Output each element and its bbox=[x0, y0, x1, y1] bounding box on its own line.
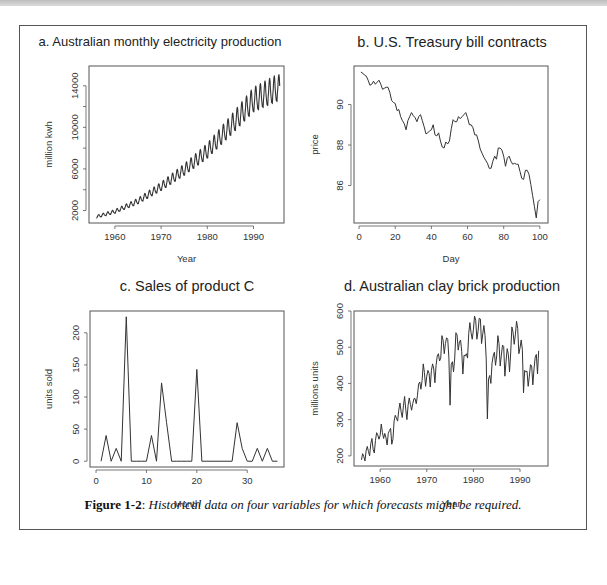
data-point bbox=[176, 461, 177, 462]
data-point bbox=[360, 71, 361, 72]
data-point bbox=[502, 344, 503, 345]
data-point bbox=[427, 370, 428, 371]
data-point bbox=[423, 363, 424, 364]
panel-title: d. Australian clay brick production bbox=[344, 278, 560, 294]
data-point bbox=[469, 322, 470, 323]
data-point bbox=[479, 318, 480, 319]
x-tick-label: 80 bbox=[498, 231, 509, 242]
data-point bbox=[496, 159, 497, 160]
data-point bbox=[369, 85, 370, 86]
data-point bbox=[373, 81, 374, 82]
data-point bbox=[440, 357, 441, 358]
data-point bbox=[411, 410, 412, 411]
data-point bbox=[409, 397, 410, 398]
data-point bbox=[460, 339, 461, 340]
data-point bbox=[405, 409, 406, 410]
data-point bbox=[272, 461, 273, 462]
y-axis-label: price bbox=[309, 134, 320, 155]
data-point bbox=[422, 120, 423, 121]
data-point bbox=[388, 433, 389, 434]
data-point bbox=[416, 121, 417, 122]
data-point bbox=[442, 146, 443, 147]
data-point bbox=[425, 386, 426, 387]
x-tick-label: 1980 bbox=[463, 474, 484, 485]
data-point bbox=[385, 437, 386, 438]
x-axis-label: Day bbox=[443, 253, 460, 264]
data-point bbox=[380, 84, 381, 85]
data-point bbox=[411, 112, 412, 113]
data-point bbox=[381, 423, 382, 424]
data-point bbox=[522, 349, 523, 350]
data-point bbox=[181, 461, 182, 462]
data-point bbox=[480, 148, 481, 149]
data-point bbox=[534, 206, 535, 207]
data-point bbox=[378, 80, 379, 81]
data-point bbox=[507, 158, 508, 159]
data-point bbox=[421, 380, 422, 381]
data-point bbox=[404, 123, 405, 124]
data-point bbox=[476, 339, 477, 340]
data-point bbox=[478, 140, 479, 141]
data-point bbox=[527, 170, 528, 171]
series-line bbox=[101, 317, 277, 461]
data-point bbox=[448, 357, 449, 358]
data-point bbox=[416, 403, 417, 404]
data-point bbox=[384, 88, 385, 89]
data-point bbox=[277, 461, 278, 462]
y-tick-label: 400 bbox=[334, 376, 345, 392]
x-tick-label: 100 bbox=[532, 231, 548, 242]
data-point bbox=[482, 334, 483, 335]
data-point bbox=[525, 371, 526, 372]
data-point bbox=[419, 381, 420, 382]
data-point bbox=[447, 339, 448, 340]
data-point bbox=[528, 174, 529, 175]
data-point bbox=[468, 333, 469, 334]
data-point bbox=[459, 342, 460, 343]
data-point bbox=[400, 116, 401, 117]
data-point bbox=[418, 384, 419, 385]
data-point bbox=[454, 357, 455, 358]
panel-title: c. Sales of product C bbox=[120, 278, 255, 294]
data-point bbox=[242, 448, 243, 449]
data-point bbox=[454, 121, 455, 122]
x-tick-label: 20 bbox=[390, 231, 401, 242]
data-point bbox=[489, 375, 490, 376]
data-point bbox=[267, 448, 268, 449]
data-point bbox=[396, 110, 397, 111]
data-point bbox=[409, 116, 410, 117]
data-point bbox=[432, 363, 433, 364]
x-tick-label: 10 bbox=[141, 475, 152, 486]
data-point bbox=[463, 114, 464, 115]
x-tick-label: 0 bbox=[93, 475, 98, 486]
data-point bbox=[386, 87, 387, 88]
data-point bbox=[511, 326, 512, 327]
series-line bbox=[96, 75, 279, 218]
data-point bbox=[460, 118, 461, 119]
data-point bbox=[474, 315, 475, 316]
data-point bbox=[477, 331, 478, 332]
data-point bbox=[402, 417, 403, 418]
data-point bbox=[475, 320, 476, 321]
data-point bbox=[424, 126, 425, 127]
data-point bbox=[445, 343, 446, 344]
data-point bbox=[389, 92, 390, 93]
data-point bbox=[465, 112, 466, 113]
data-point bbox=[362, 72, 363, 73]
data-point bbox=[486, 358, 487, 359]
data-point bbox=[430, 386, 431, 387]
data-point bbox=[481, 343, 482, 344]
data-point bbox=[462, 373, 463, 374]
data-point bbox=[407, 120, 408, 121]
data-point bbox=[391, 100, 392, 101]
data-point bbox=[406, 419, 407, 420]
data-point bbox=[529, 376, 530, 377]
data-point bbox=[517, 328, 518, 329]
y-axis-label: million kwh bbox=[43, 121, 54, 167]
data-point bbox=[470, 332, 471, 333]
data-point bbox=[216, 461, 217, 462]
data-point bbox=[484, 335, 485, 336]
x-tick-label: 40 bbox=[426, 231, 437, 242]
data-point bbox=[531, 365, 532, 366]
data-point bbox=[509, 156, 510, 157]
data-point bbox=[505, 361, 506, 362]
